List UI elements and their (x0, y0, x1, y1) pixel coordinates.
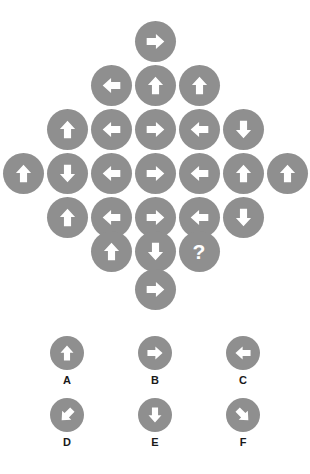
matrix-cell-r4c7 (267, 153, 308, 194)
arrow-left-icon[interactable] (226, 336, 260, 370)
arrow-left-icon (189, 163, 210, 184)
option-label-e: E (151, 437, 158, 448)
matrix-row-6: ? (0, 230, 310, 272)
matrix-cell-r1c1 (135, 21, 176, 62)
puzzle-root: ? ABCDEF (0, 0, 310, 474)
matrix-row-2 (0, 64, 310, 106)
arrow-up-icon (189, 75, 210, 96)
arrow-down-icon (233, 207, 254, 228)
arrow-right-icon[interactable] (138, 336, 172, 370)
matrix-cell-r2c2 (135, 65, 176, 106)
matrix-cell-r7c1 (135, 269, 176, 310)
arrow-left-icon (189, 207, 210, 228)
option-row-1: ABC (0, 336, 310, 402)
matrix-row-4 (0, 152, 310, 194)
matrix-row-3 (0, 108, 310, 150)
arrow-down-icon (233, 119, 254, 140)
arrow-left-icon (101, 75, 122, 96)
matrix-cell-r3c5 (223, 109, 264, 150)
question-mark-icon: ? (193, 241, 206, 262)
matrix-cell-r4c6 (223, 153, 264, 194)
arrow-right-icon (145, 31, 166, 52)
arrow-down-icon (57, 163, 78, 184)
arrow-up-icon (57, 207, 78, 228)
matrix-cell-r4c4 (135, 153, 176, 194)
arrow-up-icon (277, 163, 298, 184)
arrow-up-icon (101, 241, 122, 262)
arrow-up-icon (233, 163, 254, 184)
arrow-up-icon (13, 163, 34, 184)
option-label-d: D (63, 437, 71, 448)
matrix-cell-r4c3 (91, 153, 132, 194)
arrow-down-left-icon[interactable] (50, 398, 84, 432)
arrow-up-icon (145, 75, 166, 96)
arrow-left-icon (101, 119, 122, 140)
matrix-cell-r3c4 (179, 109, 220, 150)
option-b[interactable]: B (121, 336, 189, 402)
matrix-cell-r3c3 (135, 109, 176, 150)
option-c[interactable]: C (209, 336, 277, 402)
option-e[interactable]: E (121, 398, 189, 464)
matrix-cell-r4c5 (179, 153, 220, 194)
matrix-cell-r4c2 (47, 153, 88, 194)
matrix-cell-r6c2 (135, 231, 176, 272)
matrix-row-7 (0, 268, 310, 310)
matrix-cell-r2c1 (91, 65, 132, 106)
arrow-down-icon[interactable] (138, 398, 172, 432)
option-label-c: C (239, 375, 247, 386)
option-label-f: F (240, 437, 247, 448)
arrow-matrix: ? (0, 0, 310, 318)
matrix-cell-r6c1 (91, 231, 132, 272)
option-label-a: A (63, 375, 71, 386)
option-f[interactable]: F (209, 398, 277, 464)
arrow-left-icon (189, 119, 210, 140)
matrix-cell-r2c3 (179, 65, 220, 106)
arrow-right-icon (145, 119, 166, 140)
option-a[interactable]: A (33, 336, 101, 402)
arrow-right-icon (145, 163, 166, 184)
matrix-cell-r4c1 (3, 153, 44, 194)
arrow-right-icon (145, 207, 166, 228)
option-d[interactable]: D (33, 398, 101, 464)
arrow-left-icon (101, 163, 122, 184)
answer-options: ABCDEF (0, 330, 310, 474)
matrix-cell-missing: ? (179, 231, 220, 272)
matrix-cell-r3c2 (91, 109, 132, 150)
option-row-2: DEF (0, 398, 310, 464)
arrow-down-icon (145, 241, 166, 262)
matrix-cell-r3c1 (47, 109, 88, 150)
arrow-down-right-icon[interactable] (226, 398, 260, 432)
arrow-right-icon (145, 279, 166, 300)
arrow-left-icon (101, 207, 122, 228)
arrow-up-icon (57, 119, 78, 140)
option-label-b: B (151, 375, 159, 386)
matrix-row-1 (0, 20, 310, 62)
arrow-up-icon[interactable] (50, 336, 84, 370)
